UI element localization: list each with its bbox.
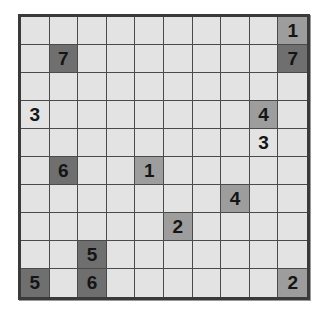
grid-cell[interactable] [250,213,279,241]
grid-cell[interactable] [193,269,222,297]
grid-cell[interactable] [107,185,136,213]
grid-cell[interactable] [278,185,307,213]
grid-cell[interactable] [107,45,136,73]
grid-cell[interactable] [193,213,222,241]
grid-cell[interactable] [50,241,79,269]
clue-cell[interactable]: 4 [250,101,279,129]
grid-cell[interactable] [193,129,222,157]
grid-cell[interactable] [78,17,107,45]
grid-cell[interactable] [107,17,136,45]
grid-cell[interactable] [78,129,107,157]
grid-cell[interactable] [278,241,307,269]
grid-cell[interactable] [50,101,79,129]
grid-cell[interactable] [135,269,164,297]
grid-cell[interactable] [221,241,250,269]
grid-cell[interactable] [21,157,50,185]
grid-cell[interactable] [250,17,279,45]
grid-cell[interactable] [21,17,50,45]
grid-cell[interactable] [107,157,136,185]
grid-cell[interactable] [221,45,250,73]
grid-cell[interactable] [135,241,164,269]
grid-cell[interactable] [107,73,136,101]
grid-cell[interactable] [278,101,307,129]
grid-cell[interactable] [278,213,307,241]
grid-cell[interactable] [78,213,107,241]
grid-cell[interactable] [250,157,279,185]
clue-cell[interactable]: 3 [21,101,50,129]
grid-cell[interactable] [164,73,193,101]
grid-cell[interactable] [135,185,164,213]
clue-cell[interactable]: 5 [78,241,107,269]
grid-cell[interactable] [21,129,50,157]
grid-cell[interactable] [164,269,193,297]
grid-cell[interactable] [21,213,50,241]
grid-cell[interactable] [135,129,164,157]
grid-cell[interactable] [164,129,193,157]
clue-cell[interactable]: 6 [78,269,107,297]
grid-cell[interactable] [50,129,79,157]
grid-cell[interactable] [221,73,250,101]
grid-cell[interactable] [50,269,79,297]
grid-cell[interactable] [135,213,164,241]
grid-cell[interactable] [221,129,250,157]
clue-cell[interactable]: 3 [250,129,279,157]
grid-cell[interactable] [250,185,279,213]
grid-cell[interactable] [21,73,50,101]
grid-cell[interactable] [193,73,222,101]
grid-cell[interactable] [164,185,193,213]
clue-cell[interactable]: 7 [50,45,79,73]
grid-cell[interactable] [78,157,107,185]
clue-cell[interactable]: 2 [278,269,307,297]
grid-cell[interactable] [164,101,193,129]
grid-cell[interactable] [135,17,164,45]
grid-cell[interactable] [135,101,164,129]
grid-cell[interactable] [278,157,307,185]
grid-cell[interactable] [164,45,193,73]
clue-cell[interactable]: 5 [21,269,50,297]
grid-cell[interactable] [221,213,250,241]
grid-cell[interactable] [221,157,250,185]
grid-cell[interactable] [78,73,107,101]
grid-cell[interactable] [250,269,279,297]
clue-cell[interactable]: 2 [164,213,193,241]
grid-cell[interactable] [278,73,307,101]
clue-cell[interactable]: 7 [278,45,307,73]
grid-cell[interactable] [21,185,50,213]
clue-cell[interactable]: 1 [135,157,164,185]
clue-cell[interactable]: 4 [221,185,250,213]
grid-cell[interactable] [107,129,136,157]
clue-cell[interactable]: 6 [50,157,79,185]
grid-cell[interactable] [21,241,50,269]
grid-cell[interactable] [50,17,79,45]
grid-cell[interactable] [78,185,107,213]
grid-cell[interactable] [221,101,250,129]
grid-cell[interactable] [78,101,107,129]
grid-cell[interactable] [164,157,193,185]
grid-cell[interactable] [50,73,79,101]
grid-cell[interactable] [221,17,250,45]
grid-cell[interactable] [78,45,107,73]
grid-cell[interactable] [193,17,222,45]
grid-cell[interactable] [50,213,79,241]
grid-cell[interactable] [193,157,222,185]
grid-cell[interactable] [135,45,164,73]
clue-cell[interactable]: 1 [278,17,307,45]
grid-cell[interactable] [193,185,222,213]
grid-cell[interactable] [278,129,307,157]
grid-cell[interactable] [221,269,250,297]
grid-cell[interactable] [135,73,164,101]
grid-cell[interactable] [21,45,50,73]
grid-cell[interactable] [193,241,222,269]
grid-cell[interactable] [193,101,222,129]
grid-cell[interactable] [107,101,136,129]
grid-cell[interactable] [250,45,279,73]
grid-cell[interactable] [250,73,279,101]
grid-cell[interactable] [164,17,193,45]
grid-cell[interactable] [193,45,222,73]
grid-cell[interactable] [107,213,136,241]
grid-cell[interactable] [250,241,279,269]
grid-cell[interactable] [107,241,136,269]
grid-cell[interactable] [164,241,193,269]
grid-cell[interactable] [107,269,136,297]
grid-cell[interactable] [50,185,79,213]
